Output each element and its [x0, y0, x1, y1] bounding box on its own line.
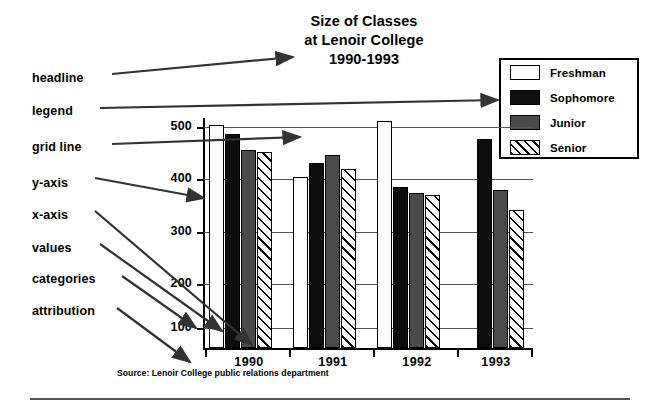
x-tick-label-1991: 1991: [293, 355, 373, 369]
bar-1991-senior: [341, 169, 356, 348]
annotation-label-categories: categories: [32, 272, 96, 286]
y-tick-100: [197, 328, 204, 330]
x-tick-2: [373, 350, 375, 357]
legend-label-freshman: Freshman: [550, 67, 606, 79]
bar-group-1991: [293, 155, 357, 348]
y-tick-400: [197, 179, 204, 181]
legend-item-freshman: Freshman: [501, 60, 637, 85]
y-tick-label-500: 500: [148, 119, 192, 133]
x-tick-label-1990: 1990: [209, 355, 289, 369]
bar-1990-senior: [257, 152, 272, 348]
arrow-attribution: [117, 308, 190, 362]
arrow-legend: [100, 100, 498, 108]
y-tick-label-100: 100: [148, 320, 192, 334]
x-tick-0: [205, 350, 207, 357]
bar-1990-freshman: [209, 125, 224, 348]
annotation-label-xaxis: x-axis: [32, 208, 68, 222]
x-axis: [203, 348, 533, 350]
bar-1991-sophomore: [309, 163, 324, 348]
y-tick-label-400: 400: [148, 171, 192, 185]
bar-1992-senior: [425, 195, 440, 348]
bar-1990-sophomore: [225, 134, 240, 348]
bar-1992-freshman: [377, 121, 392, 348]
bar-1991-junior: [325, 155, 340, 348]
y-tick-500: [197, 127, 204, 129]
bar-1993-junior: [493, 190, 508, 348]
white-swatch-icon: [510, 65, 540, 80]
footer-divider: [30, 398, 630, 400]
bar-group-1990: [209, 125, 273, 348]
annotation-label-legend: legend: [32, 104, 73, 118]
annotation-label-yaxis: y-axis: [32, 176, 68, 190]
chart-figure: Size of Classes at Lenoir College 1990-1…: [0, 0, 659, 414]
attribution-text: Source: Lenoir College public relations …: [117, 368, 329, 378]
legend-label-senior: Senior: [550, 142, 586, 154]
y-axis: [203, 118, 205, 350]
x-tick-1: [289, 350, 291, 357]
headline-line-1: Size of Classes: [248, 12, 480, 31]
headline-line-2: at Lenoir College: [248, 31, 480, 50]
legend-item-sophomore: Sophomore: [501, 85, 637, 110]
plot-area: 500 400 300 200 100: [203, 118, 533, 350]
x-tick-label-1992: 1992: [377, 355, 457, 369]
bar-1993-sophomore: [477, 139, 492, 348]
y-tick-label-300: 300: [148, 224, 192, 238]
y-tick-300: [197, 232, 204, 234]
legend-label-sophomore: Sophomore: [550, 92, 615, 104]
bar-1992-junior: [409, 193, 424, 348]
annotation-label-attribution: attribution: [32, 304, 95, 318]
bar-1991-freshman: [293, 177, 308, 348]
page-title: Size of Classes at Lenoir College 1990-1…: [248, 12, 480, 69]
x-tick-label-1993: 1993: [456, 355, 536, 369]
bar-1992-sophomore: [393, 187, 408, 348]
bar-group-1993: [461, 139, 525, 348]
annotation-label-gridline: grid line: [32, 140, 82, 154]
bar-1993-senior: [509, 210, 524, 348]
bar-1990-junior: [241, 150, 256, 348]
annotation-label-values: values: [32, 241, 72, 255]
bar-group-1992: [377, 121, 441, 348]
annotation-label-headline: headline: [32, 71, 84, 85]
legend-label-junior: Junior: [550, 117, 586, 129]
y-tick-200: [197, 284, 204, 286]
headline-line-3: 1990-1993: [248, 50, 480, 69]
black-swatch-icon: [510, 90, 540, 105]
y-tick-label-200: 200: [148, 276, 192, 290]
